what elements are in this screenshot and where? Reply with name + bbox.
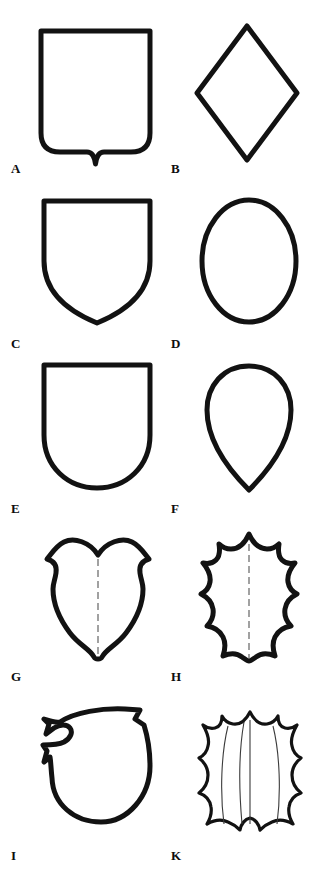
figure-label-g: G bbox=[11, 670, 21, 683]
figure-label-k: K bbox=[171, 849, 181, 862]
figure-label-i: I bbox=[11, 849, 16, 862]
figure-label-f: F bbox=[171, 502, 179, 515]
figure-label-h: H bbox=[171, 670, 181, 683]
figure-label-c: C bbox=[11, 337, 21, 350]
figure-b-shape bbox=[193, 22, 301, 164]
figure-label-e: E bbox=[11, 502, 20, 515]
figure-label-a: A bbox=[11, 162, 21, 175]
figure-e-shape bbox=[41, 362, 153, 492]
shield-shapes-plate: A B C D E F G bbox=[0, 0, 317, 869]
figure-i-shape bbox=[40, 700, 158, 828]
figure-k-shape bbox=[197, 698, 305, 830]
figure-h-shape bbox=[197, 530, 301, 664]
figure-c-shape bbox=[41, 198, 153, 326]
figure-f-shape bbox=[203, 362, 295, 494]
figure-label-b: B bbox=[171, 162, 180, 175]
figure-d-shape bbox=[198, 196, 300, 326]
figure-label-d: D bbox=[171, 337, 181, 350]
figure-a-shape bbox=[38, 28, 153, 168]
figure-g-shape bbox=[41, 533, 155, 661]
